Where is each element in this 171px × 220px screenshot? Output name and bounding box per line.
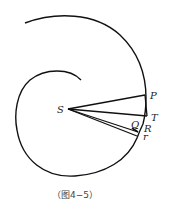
inner-spiral-curve [16,71,143,176]
label-t: T [151,112,159,123]
label-s: S [57,104,64,115]
figure-caption: （图4−5） [52,190,98,200]
radius-sp [68,95,145,109]
radius-s-r [68,109,137,136]
label-q: Q [131,119,139,130]
label-p: P [149,90,157,101]
outer-spiral-curve [25,16,146,124]
spiral-orbit-diagram: S P T Q R r （图4−5） [0,0,171,220]
